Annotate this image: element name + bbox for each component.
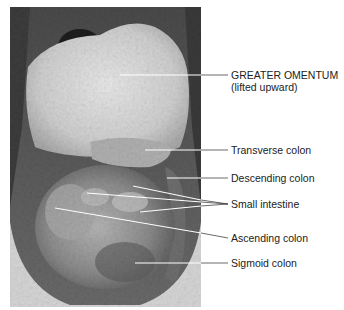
label-greater-omentum-title: GREATER OMENTUM [231,69,338,81]
sigmoid-colon-region [95,242,155,282]
label-small-intestine: Small intestine [231,198,299,210]
leader-small-intestine-2 [201,202,228,204]
label-greater-omentum-subtext: (lifted upward) [231,81,338,93]
label-ascending-colon: Ascending colon [231,232,308,244]
label-greater-omentum: GREATER OMENTUM (lifted upward) [231,69,338,93]
label-sigmoid-colon: Sigmoid colon [231,257,297,269]
label-transverse-colon: Transverse colon [231,144,311,156]
label-descending-colon: Descending colon [231,172,314,184]
abdominal-dissection-photo [10,7,201,307]
leader-ascending-colon [201,233,228,238]
leader-small-intestine-1 [201,200,228,204]
leader-small-intestine-3 [201,204,228,206]
